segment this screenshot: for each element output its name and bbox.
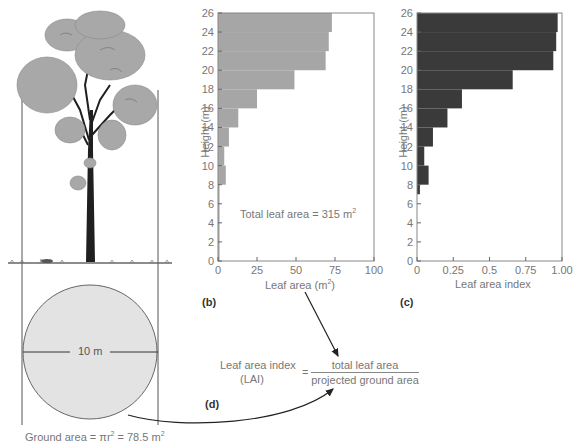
chart-b-bar <box>218 51 326 70</box>
chart-b-bar <box>218 89 257 108</box>
chart-c-bar <box>417 166 429 185</box>
chart-b-xlabel: Leaf area (m2) <box>265 278 335 291</box>
chart-b-bar <box>218 147 224 166</box>
chart-c-xlabel: Leaf area index <box>455 278 531 290</box>
chart-b-ytick-label: 24 <box>202 26 214 38</box>
total-leaf-area-annotation: Total leaf area = 315 m2 <box>240 207 356 220</box>
chart-b-ylabel: Height (m) <box>199 102 211 162</box>
formula-numerator: total leaf area <box>311 359 419 373</box>
chart-b-xtick-label: 0 <box>215 264 221 276</box>
chart-b-ytick-label: 20 <box>202 64 214 76</box>
chart-b-ytick-label: 26 <box>202 7 214 19</box>
chart-b-bar <box>218 32 329 51</box>
formula-equals: = <box>302 366 308 378</box>
chart-c-xtick-label: 0.5 <box>482 264 497 276</box>
chart-c-ytick-label: 2 <box>407 236 413 248</box>
chart-c-bar <box>417 13 558 32</box>
chart-c-bar <box>417 32 556 51</box>
chart-c-ytick-label: 22 <box>401 45 413 57</box>
chart-b-bar <box>218 13 332 32</box>
chart-c-bar <box>417 51 553 70</box>
chart-c-panel-label: (c) <box>400 296 413 308</box>
chart-c-ytick-label: 6 <box>407 198 413 210</box>
chart-b-xtick-label: 75 <box>329 264 341 276</box>
chart-b-xtick-label: 50 <box>290 264 302 276</box>
formula-lhs-line1: Leaf area index <box>220 359 296 371</box>
chart-b-bar <box>218 166 226 185</box>
chart-b-xtick-label: 100 <box>365 264 383 276</box>
chart-b-ytick-label: 18 <box>202 83 214 95</box>
chart-c-bar <box>417 89 462 108</box>
chart-c-ytick-label: 24 <box>401 26 413 38</box>
chart-b-ytick-label: 6 <box>208 198 214 210</box>
chart-c-bar <box>417 108 447 127</box>
chart-b-xlabel-suffix: ) <box>331 279 335 291</box>
chart-c-bar <box>417 147 424 166</box>
formula-panel-label: (d) <box>205 398 219 410</box>
chart-c-ytick-label: 26 <box>401 7 413 19</box>
chart-c-xtick-label: 1.00 <box>551 264 572 276</box>
chart-b-xlabel-text: Leaf area (m <box>265 279 327 291</box>
chart-b-ytick-label: 22 <box>202 45 214 57</box>
total-leaf-area-sup: 2 <box>352 207 356 214</box>
chart-b-plot: 0246810121416182022242602550751000246810… <box>0 0 583 446</box>
chart-b-panel-label: (b) <box>202 296 216 308</box>
chart-b-bar <box>218 127 229 146</box>
chart-b-bar <box>218 70 294 89</box>
chart-c-ytick-label: 4 <box>407 217 413 229</box>
chart-c-ytick-label: 20 <box>401 64 413 76</box>
chart-c-ylabel: Height (m) <box>397 102 409 162</box>
formula-denominator: projected ground area <box>311 373 419 386</box>
chart-b-xtick-label: 25 <box>251 264 263 276</box>
chart-c-bar <box>417 127 433 146</box>
chart-c-ytick-label: 0 <box>407 255 413 267</box>
total-leaf-area-text: Total leaf area = 315 m <box>240 208 352 220</box>
chart-c-ytick-label: 18 <box>401 83 413 95</box>
formula-fraction: total leaf area projected ground area <box>311 359 419 386</box>
chart-c-ytick-label: 8 <box>407 179 413 191</box>
chart-c-xtick-label: 0 <box>414 264 420 276</box>
chart-b-ytick-label: 8 <box>208 179 214 191</box>
chart-c-xtick-label: 0.75 <box>515 264 536 276</box>
chart-c-bar <box>417 70 513 89</box>
formula-lhs-line2: (LAI) <box>240 373 264 385</box>
chart-c-xtick-label: 0.25 <box>443 264 464 276</box>
chart-b-ytick-label: 0 <box>208 255 214 267</box>
chart-b-bar <box>218 108 238 127</box>
chart-b-ytick-label: 4 <box>208 217 214 229</box>
chart-b-ytick-label: 2 <box>208 236 214 248</box>
